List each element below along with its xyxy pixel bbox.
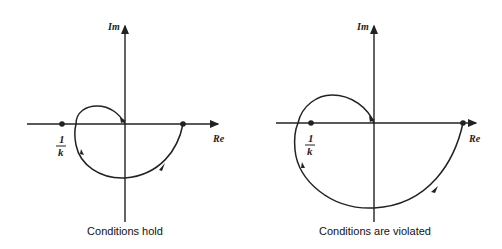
one-over-k-numerator: 1 [59, 133, 65, 145]
real-axis-label: Re [468, 133, 481, 144]
direction-arrow-icon [431, 186, 438, 193]
real-axis-label: Re [212, 133, 225, 144]
caption-conditions-violated: Conditions are violated [319, 225, 431, 237]
one-over-k-denominator: k [307, 145, 313, 157]
panel-conditions-hold: Im Re 1 k Conditions hold [27, 21, 225, 237]
critical-point-dot [59, 121, 65, 127]
imag-axis-label: Im [356, 21, 369, 32]
nyquist-curve [75, 106, 183, 178]
critical-point-dot [308, 120, 314, 126]
start-point-dot [180, 121, 186, 127]
caption-conditions-hold: Conditions hold [87, 225, 163, 237]
one-over-k-numerator: 1 [308, 132, 314, 144]
start-point-dot [460, 120, 466, 126]
one-over-k-denominator: k [58, 146, 64, 158]
direction-arrow-icon [80, 149, 84, 155]
nyquist-curve [295, 95, 463, 208]
nyquist-figure: Im Re 1 k Conditions hold Im Re 1 k Cond… [0, 0, 502, 249]
direction-arrow-icon [301, 162, 305, 168]
imag-axis-label: Im [107, 21, 120, 32]
panel-conditions-violated: Im Re 1 k Conditions are violated [276, 21, 481, 237]
